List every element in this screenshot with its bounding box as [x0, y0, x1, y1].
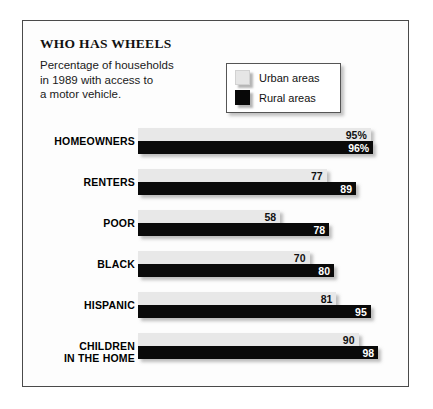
- bar-group: HOMEOWNERS95%96%: [23, 128, 408, 154]
- bar-urban: 70: [138, 251, 310, 264]
- page-title: WHO HAS WHEELS: [40, 36, 172, 52]
- bar-urban: 95%: [138, 128, 371, 141]
- bar-group: BLACK7080: [23, 251, 408, 277]
- category-label: CHILDREN IN THE HOME: [64, 340, 135, 364]
- category-label: BLACK: [97, 258, 135, 270]
- legend-item-urban: Urban areas: [235, 70, 320, 85]
- chart-subtitle: Percentage of households in 1989 with ac…: [40, 58, 174, 102]
- bar-group: CHILDREN IN THE HOME9098: [23, 333, 408, 359]
- bar-value-label: 80: [318, 265, 330, 276]
- bar-group: HISPANIC8195: [23, 292, 408, 318]
- legend-item-rural: Rural areas: [235, 90, 316, 105]
- chart-legend: Urban areas Rural areas: [226, 63, 341, 113]
- bar-rural: 78: [138, 223, 329, 236]
- bar-urban: 58: [138, 210, 280, 223]
- bar-value-label: 78: [313, 224, 325, 235]
- category-label: RENTERS: [83, 176, 135, 188]
- bar-group: POOR5878: [23, 210, 408, 236]
- legend-label-urban: Urban areas: [259, 72, 320, 84]
- bar-value-label: 58: [264, 211, 276, 222]
- bar-group: RENTERS7789: [23, 169, 408, 195]
- bar-value-label: 70: [294, 252, 306, 263]
- category-label: POOR: [103, 217, 135, 229]
- bar-plot-area: HOMEOWNERS95%96%RENTERS7789POOR5878BLACK…: [23, 126, 408, 381]
- bar-urban: 90: [138, 333, 359, 346]
- bar-value-label: 81: [321, 293, 333, 304]
- bar-rural: 96%: [138, 141, 373, 154]
- bar-value-label: 95%: [346, 129, 367, 140]
- bar-rural: 89: [138, 182, 356, 195]
- bar-value-label: 96%: [348, 142, 369, 153]
- bar-value-label: 98: [362, 347, 374, 358]
- bar-value-label: 89: [340, 183, 352, 194]
- bar-value-label: 90: [343, 334, 355, 345]
- bar-value-label: 95: [355, 306, 367, 317]
- legend-label-rural: Rural areas: [259, 92, 316, 104]
- legend-swatch-rural-icon: [235, 90, 250, 105]
- bar-urban: 77: [138, 169, 327, 182]
- bar-value-label: 77: [311, 170, 323, 181]
- bar-rural: 80: [138, 264, 334, 277]
- category-label: HISPANIC: [84, 299, 135, 311]
- bar-rural: 95: [138, 305, 371, 318]
- category-label: HOMEOWNERS: [54, 135, 135, 147]
- bar-rural: 98: [138, 346, 378, 359]
- bar-urban: 81: [138, 292, 336, 305]
- chart-frame: WHO HAS WHEELS Percentage of households …: [22, 20, 409, 387]
- legend-swatch-urban-icon: [235, 70, 250, 85]
